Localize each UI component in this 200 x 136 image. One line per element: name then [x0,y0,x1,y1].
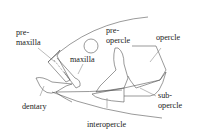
dentary-bone [36,78,72,94]
label-premaxilla-1: pre- [16,28,29,37]
label-premaxilla-2: maxilla [16,38,41,47]
premaxilla-bone [48,50,70,82]
preopercle-bone [96,48,128,92]
dentary-leader [40,86,44,96]
label-preopercle-2: opercle [106,36,130,45]
label-maxilla: maxilla [70,55,95,64]
maxilla-leader [78,64,83,74]
label-subopercle-1: sub- [158,91,172,100]
opercle-bone [128,46,166,88]
label-opercle: opercle [156,33,180,42]
premaxilla-leader [38,48,55,62]
eye [84,39,98,53]
label-preopercle-1: pre- [106,26,119,35]
head-outline-top [48,17,148,62]
label-dentary: dentary [22,102,47,111]
fish-head-diagram: pre- maxilla maxilla pre- opercle opercl… [0,0,200,136]
subopercle-leader [140,88,156,96]
label-interopercle: interopercle [87,120,126,129]
opercle-leader [150,48,161,62]
label-subopercle-2: opercle [158,101,182,110]
